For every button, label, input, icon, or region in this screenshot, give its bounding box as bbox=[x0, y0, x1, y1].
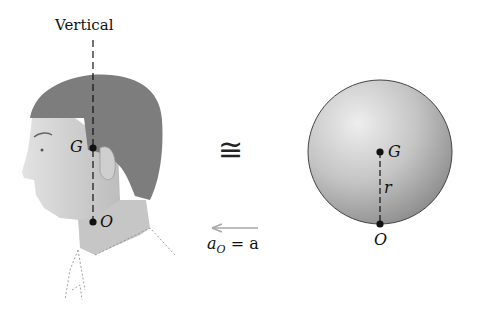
sphere-radius-label: r bbox=[384, 178, 392, 197]
neck-pivot-point bbox=[89, 218, 96, 225]
acceleration-arrow bbox=[212, 224, 258, 232]
acceleration-subscript: O bbox=[217, 243, 226, 256]
vertical-label: Vertical bbox=[55, 16, 113, 34]
neck-pivot-label: O bbox=[100, 212, 113, 231]
equivalence-symbol: ≅ bbox=[218, 132, 243, 167]
head-illustration bbox=[22, 75, 175, 300]
acceleration-symbol: a bbox=[207, 234, 217, 253]
sphere-contact-label: O bbox=[374, 230, 387, 249]
acceleration-rhs: = a bbox=[231, 234, 259, 253]
sphere-center-point bbox=[376, 148, 383, 155]
acceleration-label: aO = a bbox=[207, 234, 259, 256]
head-center-point bbox=[89, 144, 96, 151]
sphere-contact-point bbox=[376, 220, 383, 227]
head-center-label: G bbox=[70, 137, 83, 156]
sphere-center-label: G bbox=[388, 142, 401, 161]
